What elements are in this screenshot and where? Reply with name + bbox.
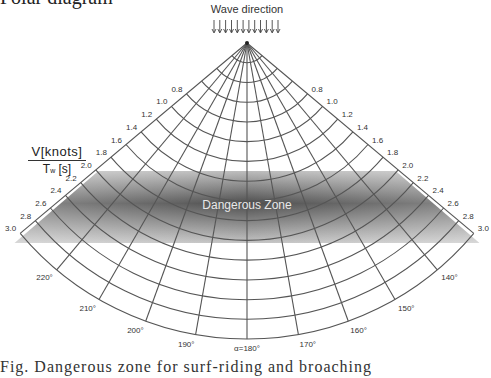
svg-text:2.8: 2.8 (463, 212, 475, 221)
svg-text:1.2: 1.2 (342, 110, 354, 119)
svg-text:1.2: 1.2 (141, 110, 153, 119)
axis-label-period-subscript: w (50, 167, 55, 174)
svg-text:200°: 200° (127, 326, 144, 335)
wave-direction-title: Wave direction (202, 3, 292, 15)
svg-text:1.8: 1.8 (387, 148, 399, 157)
svg-text:2.8: 2.8 (20, 212, 32, 221)
svg-text:150°: 150° (398, 304, 415, 313)
svg-text:1.8: 1.8 (96, 148, 108, 157)
svg-text:1.6: 1.6 (372, 136, 384, 145)
svg-text:210°: 210° (79, 304, 96, 313)
svg-text:220°: 220° (36, 273, 53, 282)
axis-label-denominator: Tw [s] (28, 161, 86, 176)
svg-text:2.2: 2.2 (417, 174, 429, 183)
svg-text:190°: 190° (178, 340, 195, 349)
wave-direction-arrows-icon (212, 20, 280, 33)
svg-text:0.8: 0.8 (171, 85, 183, 94)
svg-text:2.0: 2.0 (402, 161, 414, 170)
svg-text:2.4: 2.4 (433, 186, 445, 195)
svg-text:140°: 140° (441, 273, 458, 282)
svg-text:α=180°: α=180° (234, 344, 260, 353)
axis-label-numerator: V[knots] (28, 144, 86, 161)
svg-text:1.4: 1.4 (126, 123, 138, 132)
speed-ratio-axis-label: V[knots] Tw [s] (28, 144, 86, 176)
clipped-caption-text: Fig. Dangerous zone for surf-riding and … (0, 358, 491, 378)
svg-text:1.6: 1.6 (111, 136, 123, 145)
svg-text:3.0: 3.0 (478, 224, 490, 233)
svg-text:1.4: 1.4 (357, 123, 369, 132)
svg-text:1.0: 1.0 (156, 97, 168, 106)
svg-text:0.8: 0.8 (312, 85, 324, 94)
svg-text:3.0: 3.0 (5, 224, 17, 233)
svg-text:170°: 170° (300, 340, 317, 349)
svg-text:1.0: 1.0 (327, 97, 339, 106)
dangerous-zone-label: Dangerous Zone (202, 198, 292, 212)
svg-text:2.4: 2.4 (50, 186, 62, 195)
svg-text:2.6: 2.6 (448, 199, 460, 208)
svg-text:160°: 160° (350, 326, 367, 335)
svg-text:2.6: 2.6 (35, 199, 47, 208)
axis-label-period-unit: [s] (59, 162, 72, 176)
